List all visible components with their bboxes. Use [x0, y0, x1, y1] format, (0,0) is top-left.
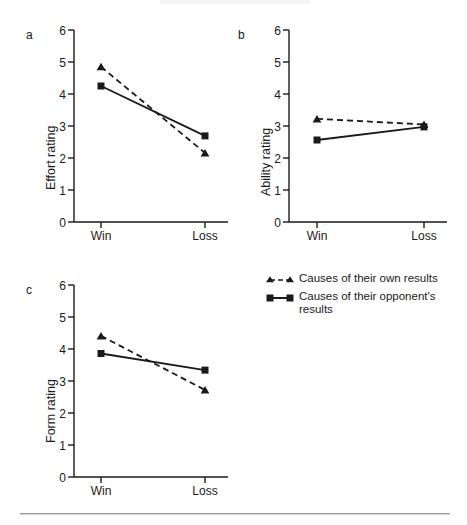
- panel-a-marker-opponent-win: [98, 83, 105, 90]
- panel-c-series-own-line: [101, 336, 205, 390]
- panel-b-xtick-win: Win: [297, 229, 337, 243]
- legend-item-opponent: Causes of their opponent's results: [265, 290, 465, 316]
- panel-b-series-opponent-line: [317, 127, 424, 140]
- panel-a-marker-opponent-loss: [202, 132, 209, 139]
- legend-key-opponent-square-solid-icon: [265, 291, 295, 305]
- legend-label-own: Causes of their own results: [295, 272, 438, 285]
- footer-divider: [20, 513, 450, 515]
- panel-a-series-opponent-line: [101, 86, 205, 136]
- legend-item-own: Causes of their own results: [265, 272, 465, 287]
- panel-c-marker-own-win: [97, 332, 106, 340]
- panel-b-xtick-loss: Loss: [404, 229, 444, 243]
- panel-c-marker-opponent-loss: [202, 367, 209, 374]
- panel-b-marker-opponent-loss: [421, 123, 428, 130]
- panel-c: c Form rating 6 5 4 3 2 1 0: [0, 255, 240, 515]
- panel-b-series-own-line: [317, 119, 424, 125]
- panel-c-xtick-loss: Loss: [185, 484, 225, 498]
- panel-c-marker-own-loss: [201, 386, 210, 394]
- panel-b-plot-area: [225, 0, 467, 240]
- panel-c-plot-area: [0, 255, 240, 495]
- panel-a-xtick-win: Win: [81, 229, 121, 243]
- panel-c-xtick-win: Win: [81, 484, 121, 498]
- panel-a-xtick-loss: Loss: [185, 229, 225, 243]
- panel-a-plot-area: [0, 0, 240, 240]
- chart-legend: Causes of their own results Causes of th…: [265, 272, 465, 319]
- panel-c-series-opponent-line: [101, 354, 205, 371]
- legend-key-own-triangle-dashed-icon: [265, 273, 295, 287]
- panel-a-series-own-line: [101, 67, 205, 153]
- legend-label-opponent: Causes of their opponent's results: [295, 290, 461, 316]
- panel-b-marker-opponent-win: [314, 137, 321, 144]
- panel-c-marker-opponent-win: [98, 350, 105, 357]
- panel-a-marker-own-win: [97, 63, 106, 71]
- figure-root: a Effort rating 6 5 4 3 2 1 0: [0, 0, 467, 525]
- panel-a: a Effort rating 6 5 4 3 2 1 0: [0, 0, 240, 260]
- panel-b: b Ability rating 6 5 4 3 2 1 0: [225, 0, 467, 260]
